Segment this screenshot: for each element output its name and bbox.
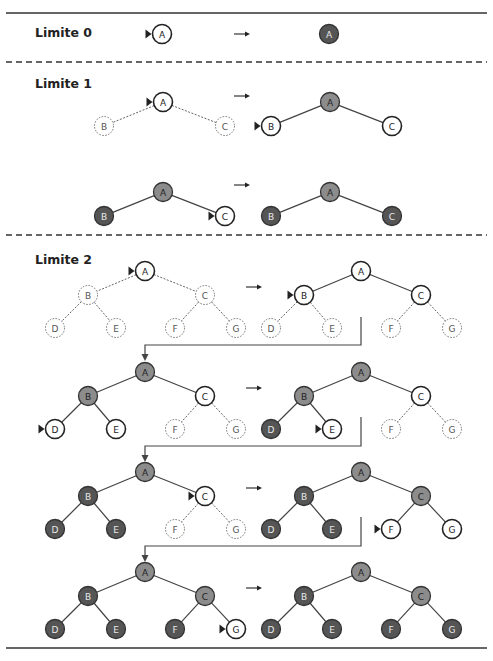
node-label: G xyxy=(233,525,240,535)
tree: ABC xyxy=(255,93,402,136)
node-label: C xyxy=(389,212,395,222)
tree-edge xyxy=(113,196,154,213)
transition-arrow-icon xyxy=(234,182,250,187)
tree-node-e: E xyxy=(107,520,126,539)
tree-edge xyxy=(428,302,446,321)
pointer-icon xyxy=(220,625,226,634)
tree-edge xyxy=(94,403,110,422)
tree-node-e: E xyxy=(316,420,342,439)
ids-diagram: Limite 0Limite 1Limite 2 AAABCABCABCABCA… xyxy=(0,0,493,661)
tree-node-e: E xyxy=(323,319,342,338)
node-label: D xyxy=(52,625,59,635)
node-label: F xyxy=(172,324,177,334)
tree-node-b: B xyxy=(79,487,98,506)
transition-arrow-icon xyxy=(246,485,262,490)
tree-node-b: B xyxy=(295,487,314,506)
tree: ABCDEFG xyxy=(262,563,462,639)
node-label: G xyxy=(449,525,456,535)
node-label: D xyxy=(52,425,59,435)
tree-node-d: D xyxy=(46,319,65,338)
tree-edge xyxy=(278,302,298,322)
tree-node-a: A xyxy=(146,25,172,44)
tree-node-c: C xyxy=(196,286,215,305)
tree-edge xyxy=(313,576,352,593)
section-label: Limite 0 xyxy=(35,25,92,40)
node-label: B xyxy=(301,291,307,301)
node-label: A xyxy=(327,98,334,108)
tree-edge xyxy=(310,603,326,622)
tree-node-c: C xyxy=(216,117,235,136)
tree-edge xyxy=(370,476,412,493)
node-label: C xyxy=(202,492,208,502)
tree-node-c: C xyxy=(383,207,402,226)
tree-node-a: A xyxy=(147,93,173,112)
node-label: A xyxy=(327,188,334,198)
tree-edge xyxy=(154,476,196,493)
node-label: F xyxy=(388,425,393,435)
node-label: A xyxy=(160,188,167,198)
tree-node-b: B xyxy=(262,207,281,226)
tree-node-a: A xyxy=(352,363,371,382)
transition-arrow-icon xyxy=(246,585,262,590)
tree-node-d: D xyxy=(262,620,281,639)
tree-node-c: C xyxy=(412,487,431,506)
tree: A xyxy=(146,25,172,44)
pointer-icon xyxy=(129,267,135,276)
tree-node-c: C xyxy=(196,587,215,606)
tree-node-g: G xyxy=(443,319,462,338)
tree-node-a: A xyxy=(320,25,339,44)
tree-node-a: A xyxy=(352,463,371,482)
tree-edge xyxy=(397,503,414,522)
section-rules xyxy=(6,13,487,648)
node-label: C xyxy=(202,592,208,602)
tree-node-g: G xyxy=(227,319,246,338)
tree-edge xyxy=(62,503,82,523)
node-label: D xyxy=(268,425,275,435)
tree-node-g: G xyxy=(443,520,462,539)
tree-node-b: B xyxy=(79,587,98,606)
tree-edge xyxy=(181,302,198,321)
node-label: A xyxy=(358,468,365,478)
node-label: C xyxy=(202,392,208,402)
node-label: E xyxy=(113,425,119,435)
tree-node-d: D xyxy=(262,319,281,338)
node-label: B xyxy=(268,122,274,132)
node-label: B xyxy=(85,392,91,402)
tree-edge xyxy=(280,196,321,213)
tree-node-d: D xyxy=(262,520,281,539)
tree-edge xyxy=(181,603,198,622)
tree-node-a: A xyxy=(136,563,155,582)
tree: ABCDEFG xyxy=(46,563,246,639)
node-label: D xyxy=(268,324,275,334)
tree-node-f: F xyxy=(166,420,185,439)
tree-edge xyxy=(62,403,82,423)
node-label: A xyxy=(142,368,149,378)
tree-node-f: F xyxy=(375,520,401,539)
tree-node-g: G xyxy=(443,420,462,439)
node-label: C xyxy=(418,291,424,301)
tree-edge xyxy=(97,576,136,593)
tree-edge xyxy=(172,105,216,122)
tree-node-e: E xyxy=(323,520,342,539)
tree-node-a: A xyxy=(129,262,155,281)
tree-edge xyxy=(370,576,412,593)
node-label: C xyxy=(418,492,424,502)
node-label: C xyxy=(389,122,395,132)
tree-node-a: A xyxy=(352,563,371,582)
node-label: E xyxy=(329,324,335,334)
tree-node-a: A xyxy=(154,183,173,202)
tree-node-f: F xyxy=(382,620,401,639)
pointer-icon xyxy=(375,525,381,534)
node-label: F xyxy=(172,525,177,535)
transition-arrow-icon xyxy=(234,93,250,98)
tree-edge xyxy=(154,576,196,593)
pointer-icon xyxy=(146,30,152,39)
tree-node-d: D xyxy=(39,420,65,439)
transition-arrow-icon xyxy=(246,284,262,289)
tree-node-c: C xyxy=(209,207,235,226)
node-label: E xyxy=(329,525,335,535)
tree-node-f: F xyxy=(166,620,185,639)
node-label: B xyxy=(301,392,307,402)
tree-edge xyxy=(428,503,446,522)
node-label: A xyxy=(142,568,149,578)
